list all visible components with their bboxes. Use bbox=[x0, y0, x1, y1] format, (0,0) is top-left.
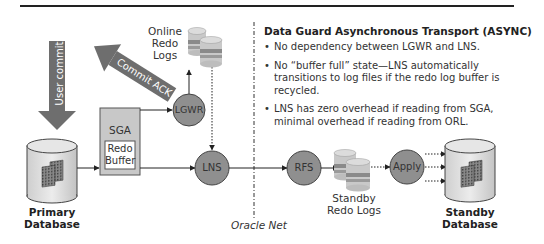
primary-database-icon bbox=[27, 139, 77, 203]
standby-redo-logs-label: Standby Redo Logs bbox=[326, 192, 382, 216]
redo-buffer-label: Redo Buffer bbox=[105, 143, 135, 167]
online-redo-logs-icon bbox=[188, 28, 222, 68]
standby-redo-logs-icon bbox=[334, 150, 370, 192]
bullet-item: LNS has zero overhead if reading from SG… bbox=[264, 103, 534, 128]
online-redo-logs-label: Online Redo Logs bbox=[140, 25, 190, 61]
user-commit-label: User commit bbox=[54, 42, 65, 106]
bullet-item: No “buffer full” state—LNS automatically… bbox=[264, 60, 534, 98]
primary-database-label: Primary Database bbox=[22, 206, 82, 230]
panel-title: Data Guard Asynchronous Transport (ASYNC… bbox=[264, 25, 534, 37]
rfs-label: RFS bbox=[288, 162, 320, 174]
apply-label: Apply bbox=[390, 161, 424, 173]
sga-label: SGA bbox=[100, 124, 140, 136]
bullet-item: No dependency between LGWR and LNS. bbox=[264, 41, 534, 54]
bullet-list: No dependency between LGWR and LNS. No “… bbox=[264, 41, 534, 128]
lgwr-label: LGWR bbox=[173, 104, 205, 116]
lns-label: LNS bbox=[196, 162, 228, 174]
async-description-panel: Data Guard Asynchronous Transport (ASYNC… bbox=[264, 25, 534, 134]
standby-database-icon bbox=[445, 139, 495, 202]
oracle-net-label: Oracle Net bbox=[231, 219, 287, 231]
standby-database-label: Standby Database bbox=[440, 206, 500, 230]
